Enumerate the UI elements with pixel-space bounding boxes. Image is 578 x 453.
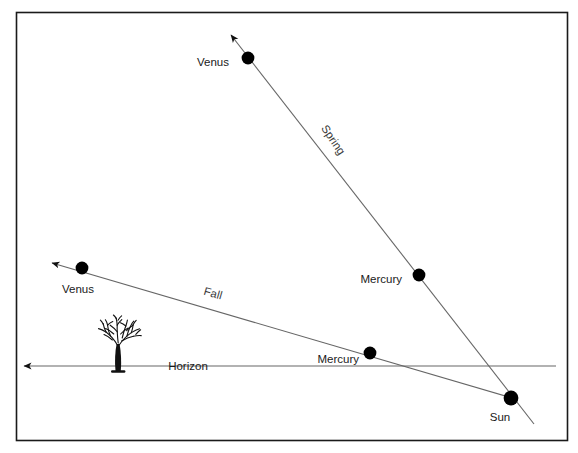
mercury-fall-label: Mercury <box>317 353 359 365</box>
sun-marker <box>504 391 519 406</box>
mercury-fall-marker <box>364 347 377 360</box>
sun-label: Sun <box>490 411 510 423</box>
venus-spring-label: Venus <box>197 56 229 68</box>
astronomy-diagram: Horizon Spring Venus Mercury Fall Venus … <box>0 0 578 453</box>
diagram-frame <box>17 13 568 441</box>
horizon-label: Horizon <box>168 360 208 372</box>
mercury-spring-label: Mercury <box>360 273 402 285</box>
venus-spring-marker <box>242 52 255 65</box>
venus-fall-label: Venus <box>62 283 94 295</box>
mercury-spring-marker <box>413 269 426 282</box>
venus-fall-marker <box>76 262 89 275</box>
diagram-canvas: Horizon Spring Venus Mercury Fall Venus … <box>0 0 578 453</box>
